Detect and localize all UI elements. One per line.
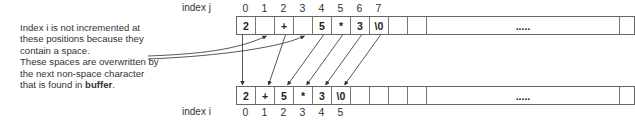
space-pointer-arrow-0 bbox=[148, 36, 267, 56]
bottom-cell-11 bbox=[620, 87, 634, 104]
mapping-arrow-2 bbox=[288, 35, 324, 85]
mapping-arrow-3 bbox=[307, 35, 343, 85]
mapping-arrow-5 bbox=[345, 35, 381, 85]
mapping-arrow-1 bbox=[269, 35, 286, 85]
mapping-arrow-4 bbox=[326, 35, 362, 85]
top-cell-11 bbox=[620, 17, 634, 34]
